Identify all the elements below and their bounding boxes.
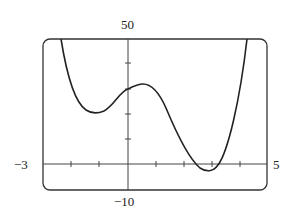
- y-min-label: −10: [114, 195, 134, 208]
- chart-canvas: [0, 0, 287, 215]
- viewing-window-frame: [43, 39, 267, 190]
- x-min-label: −3: [14, 158, 28, 171]
- x-max-label: 5: [273, 158, 280, 171]
- function-curve: [61, 39, 247, 171]
- y-max-label: 50: [121, 18, 134, 31]
